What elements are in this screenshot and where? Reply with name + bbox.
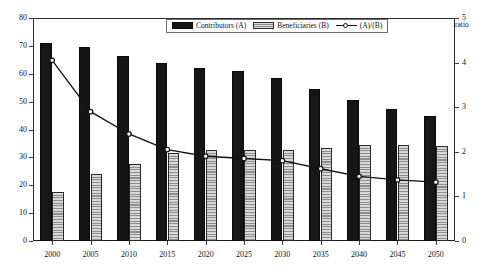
bar-beneficiaries (52, 192, 64, 241)
legend-label-beneficiaries: Beneficiaries (B) (277, 21, 328, 30)
x-axis-tick-mark (91, 241, 92, 245)
x-axis-tick-label: 2045 (377, 250, 417, 259)
y2-axis-tick-label: 0 (462, 236, 480, 245)
x-axis-tick-mark (436, 241, 437, 245)
y2-axis-tick-mark (455, 152, 459, 153)
line-marker-swatch-icon (336, 22, 357, 30)
legend-label-ratio: (A)/(B) (360, 21, 383, 30)
y-axis-tick-label: 50 (5, 97, 27, 106)
y2-axis-tick-label: 2 (462, 147, 480, 156)
x-axis-tick-label: 2000 (32, 250, 72, 259)
x-axis-tick-mark (244, 241, 245, 245)
y2-axis-tick-label: 1 (462, 191, 480, 200)
y2-axis-tick-mark (455, 107, 459, 108)
y-axis-tick-label: 10 (5, 208, 27, 217)
bar-beneficiaries (283, 150, 295, 241)
bar-beneficiaries (206, 150, 218, 241)
x-axis-tick-label: 2030 (262, 250, 302, 259)
bars-layer (33, 18, 455, 241)
y-axis-tick-label: 30 (5, 152, 27, 161)
x-axis-tick-mark (167, 241, 168, 245)
x-axis-tick-label: 2050 (416, 250, 456, 259)
y-axis-tick-label: 60 (5, 69, 27, 78)
x-axis-tick-mark (206, 241, 207, 245)
x-axis-tick-mark (397, 241, 398, 245)
x-axis-tick-mark (129, 241, 130, 245)
x-axis-tick-label: 2035 (301, 250, 341, 259)
y-axis-tick-label: 70 (5, 41, 27, 50)
x-axis-tick-label: 2015 (147, 250, 187, 259)
legend-item-ratio: (A)/(B) (336, 21, 383, 30)
x-axis-tick-label: 2040 (339, 250, 379, 259)
black-bar-swatch-icon (172, 22, 193, 29)
bar-beneficiaries (91, 174, 103, 241)
bar-beneficiaries (321, 148, 333, 241)
bar-contributors (40, 43, 52, 241)
x-axis-tick-label: 2005 (71, 250, 111, 259)
bar-contributors (424, 116, 436, 241)
bar-beneficiaries (436, 146, 448, 241)
hatched-bar-swatch-icon (253, 22, 274, 29)
legend-item-beneficiaries: Beneficiaries (B) (253, 21, 328, 30)
bar-contributors (271, 78, 283, 241)
y-axis-tick-label: 40 (5, 125, 27, 134)
y2-axis-tick-mark (455, 18, 459, 19)
bar-beneficiaries (398, 145, 410, 241)
y2-axis-tick-label: 4 (462, 58, 480, 67)
y2-axis-tick-mark (455, 196, 459, 197)
x-axis-tick-mark (321, 241, 322, 245)
bar-contributors (79, 47, 91, 241)
bar-beneficiaries (129, 164, 141, 241)
bar-contributors (309, 89, 321, 241)
x-axis-tick-mark (52, 241, 53, 245)
y2-axis-tick-mark (455, 63, 459, 64)
chart-container: million ratio 01020304050607080 012345 2… (0, 0, 503, 269)
x-axis-tick-mark (282, 241, 283, 245)
chart-legend: Contributors (A) Beneficiaries (B) (A)/(… (166, 19, 388, 33)
y-axis-tick-label: 80 (5, 13, 27, 22)
bar-beneficiaries (359, 145, 371, 241)
legend-item-contributors: Contributors (A) (172, 21, 246, 30)
bar-beneficiaries (168, 153, 180, 241)
bar-contributors (156, 63, 168, 241)
bar-contributors (117, 56, 129, 241)
bar-contributors (347, 100, 359, 241)
legend-label-contributors: Contributors (A) (196, 21, 246, 30)
bar-contributors (232, 71, 244, 241)
y-axis-tick-mark (29, 241, 33, 242)
bar-contributors (194, 68, 206, 241)
y2-axis-tick-label: 3 (462, 102, 480, 111)
x-axis-tick-mark (359, 241, 360, 245)
y-axis-tick-label: 20 (5, 180, 27, 189)
x-axis-tick-label: 2010 (109, 250, 149, 259)
x-axis-tick-label: 2020 (186, 250, 226, 259)
y2-axis-tick-mark (455, 241, 459, 242)
bar-beneficiaries (244, 150, 256, 241)
y-axis-tick-label: 0 (5, 236, 27, 245)
y2-axis-tick-label: 5 (462, 13, 480, 22)
x-axis-tick-label: 2025 (224, 250, 264, 259)
bar-contributors (386, 109, 398, 241)
